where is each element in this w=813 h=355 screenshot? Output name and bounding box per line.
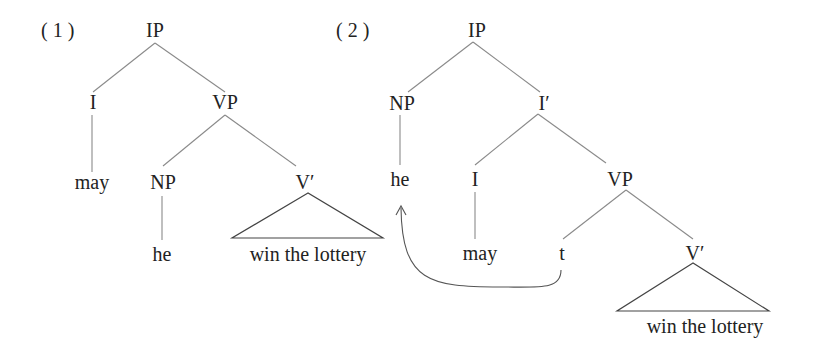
tree-1: ( 1 ) IP I VP may NP V′ he win the lotte… <box>41 19 383 266</box>
node-ip: IP <box>146 19 164 41</box>
edge-vp-np <box>163 115 225 166</box>
node-i: I <box>472 168 479 190</box>
triangle-vbar <box>617 263 769 311</box>
edge-vp-vbar <box>626 190 693 239</box>
leaf-win-the-lottery: win the lottery <box>250 243 367 266</box>
syntax-tree-diagram: ( 1 ) IP I VP may NP V′ he win the lotte… <box>0 0 813 355</box>
node-np: NP <box>150 171 176 193</box>
tree-2: ( 2 ) IP NP I′ he I VP may t V′ win the … <box>336 19 769 338</box>
node-ibar: I′ <box>538 92 549 114</box>
node-i: I <box>90 91 97 113</box>
trace-t: t <box>559 242 565 264</box>
edge-ibar-vp <box>538 114 606 163</box>
edge-vp-vbar <box>225 115 296 166</box>
edge-ip-np <box>408 42 473 92</box>
leaf-he: he <box>153 243 172 265</box>
edge-ip-vp <box>155 43 225 92</box>
node-np: NP <box>389 92 415 114</box>
node-vp: VP <box>212 91 238 113</box>
leaf-he: he <box>391 168 410 190</box>
edge-ip-i <box>93 43 155 92</box>
node-ip: IP <box>468 19 486 41</box>
leaf-may: may <box>463 242 497 265</box>
node-vbar: V′ <box>296 171 315 193</box>
triangle-vbar <box>232 193 383 238</box>
node-vbar: V′ <box>686 242 705 264</box>
edge-ibar-i <box>475 114 538 165</box>
tree-2-label: ( 2 ) <box>336 19 369 42</box>
edge-vp-t <box>563 190 626 239</box>
leaf-win-the-lottery: win the lottery <box>647 315 764 338</box>
node-vp: VP <box>607 168 633 190</box>
leaf-may: may <box>75 171 109 194</box>
tree-1-label: ( 1 ) <box>41 19 74 42</box>
edge-ip-ibar <box>473 42 540 92</box>
